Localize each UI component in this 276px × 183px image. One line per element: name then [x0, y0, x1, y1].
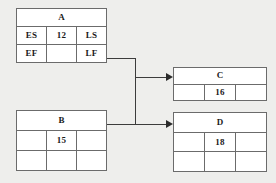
node-a-cell-ls: LS	[76, 27, 106, 44]
node-c-cell-es	[174, 85, 204, 101]
node-c-title-row: C	[174, 68, 266, 84]
node-c-title: C	[174, 68, 266, 84]
node-d-cell-es	[174, 133, 204, 152]
node-a-title-row: A	[17, 9, 106, 26]
node-a-title: A	[17, 9, 106, 26]
node-b-row-1: 15	[17, 130, 106, 150]
node-c-cell-ls	[235, 85, 266, 101]
node-b-cell-lf	[76, 151, 106, 170]
connector-vertical-trunk	[135, 58, 136, 125]
node-b[interactable]: B 15	[16, 110, 107, 171]
connector-a-outbound	[107, 58, 136, 59]
node-d-title-row: D	[174, 113, 266, 132]
node-c-cell-duration: 16	[204, 85, 235, 101]
node-a[interactable]: A ES 12 LS EF LF	[16, 8, 107, 63]
connector-to-node-c	[135, 77, 168, 78]
node-a-row-2: EF LF	[17, 44, 106, 62]
node-a-cell-es: ES	[17, 27, 46, 44]
node-a-cell-ef: EF	[17, 45, 46, 62]
connector-to-node-d	[135, 124, 168, 125]
node-d-cell-slack	[204, 152, 235, 171]
node-b-title: B	[17, 111, 106, 130]
node-b-title-row: B	[17, 111, 106, 130]
node-b-cell-ef	[17, 151, 46, 170]
node-b-cell-duration: 15	[46, 131, 76, 150]
node-d-cell-duration: 18	[204, 133, 235, 152]
arrowhead-into-node-d	[166, 120, 173, 128]
node-b-row-2	[17, 150, 106, 170]
node-a-row-1: ES 12 LS	[17, 26, 106, 44]
node-d-row-1: 18	[174, 132, 266, 152]
node-d-cell-ls	[235, 133, 266, 152]
node-a-cell-duration: 12	[46, 27, 76, 44]
node-c-row-1: 16	[174, 84, 266, 101]
connector-b-outbound	[107, 124, 136, 125]
node-d[interactable]: D 18	[173, 112, 267, 172]
node-d-cell-ef	[174, 152, 204, 171]
node-b-cell-es	[17, 131, 46, 150]
diagram-canvas: A ES 12 LS EF LF B 15 C	[0, 0, 276, 183]
node-a-cell-lf: LF	[76, 45, 106, 62]
node-d-title: D	[174, 113, 266, 132]
node-b-cell-slack	[46, 151, 76, 170]
node-d-row-2	[174, 151, 266, 171]
arrowhead-into-node-c	[166, 73, 173, 81]
node-c[interactable]: C 16	[173, 67, 267, 101]
node-b-cell-ls	[76, 131, 106, 150]
node-a-cell-slack	[46, 45, 76, 62]
node-d-cell-lf	[235, 152, 266, 171]
